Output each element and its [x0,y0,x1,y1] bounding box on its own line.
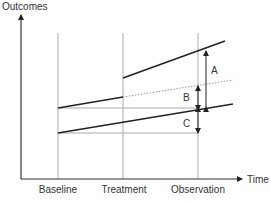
tick-observation: Observation [171,184,225,195]
treated-pre-line [58,97,123,108]
tick-baseline: Baseline [39,184,78,195]
label-c: C [183,118,190,129]
y-axis-label: Outcomes [2,1,48,12]
x-axis-label: Time [247,174,269,185]
label-a: A [211,65,218,76]
counterfactual-dotted-line [123,80,233,97]
label-b: B [183,92,190,103]
treated-post-line [123,41,225,78]
did-diagram: Outcomes Time Baseline Treatment Observa… [0,0,271,201]
tick-treatment: Treatment [101,184,146,195]
